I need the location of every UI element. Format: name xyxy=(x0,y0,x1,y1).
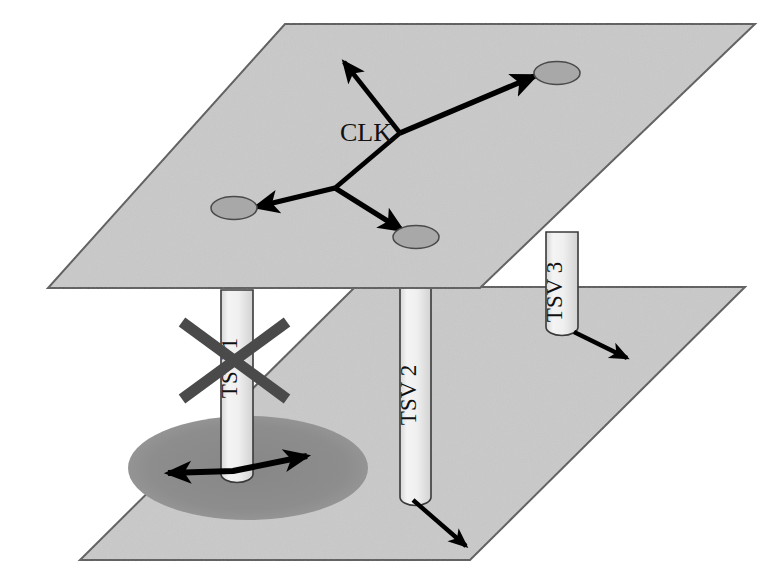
clock-sink-mid-left[interactable] xyxy=(211,197,257,220)
tsv-2-label: TSV 2 xyxy=(396,365,421,425)
clock-sink-top-right[interactable] xyxy=(534,62,580,85)
diagram-root: TSV 2 TSV 3 xyxy=(0,0,763,581)
upper-die-surface xyxy=(48,24,755,288)
clk-source-label: CLK xyxy=(340,118,392,147)
tsv-1[interactable]: TSV 1 xyxy=(217,290,253,483)
tsv-3-label: TSV 3 xyxy=(542,262,567,322)
upper-die-plane xyxy=(48,24,755,288)
clock-sink-bottom-center[interactable] xyxy=(393,226,439,249)
tsv-clock-diagram-svg: TSV 2 TSV 3 xyxy=(0,0,763,581)
